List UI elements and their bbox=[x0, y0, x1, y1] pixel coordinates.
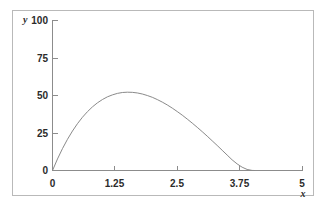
figure-container: 100 75 50 25 0 0 1.25 2.5 3.75 5 y x bbox=[0, 0, 324, 204]
y-axis-tick-labels: 100 75 50 25 0 bbox=[31, 15, 48, 176]
x-tick-label-3-75: 3.75 bbox=[230, 178, 250, 189]
x-axis-tick-labels: 0 1.25 2.5 3.75 5 bbox=[50, 178, 306, 189]
x-axis-ticks bbox=[53, 166, 303, 171]
x-tick-label-1-25: 1.25 bbox=[105, 178, 125, 189]
y-tick-label-0: 0 bbox=[42, 165, 48, 176]
y-tick-label-100: 100 bbox=[31, 15, 48, 26]
y-tick-label-25: 25 bbox=[37, 128, 49, 139]
y-axis-label: y bbox=[22, 14, 28, 25]
plot-area: 100 75 50 25 0 0 1.25 2.5 3.75 5 y x bbox=[0, 0, 324, 204]
x-axis-label: x bbox=[300, 188, 306, 199]
data-curve bbox=[53, 92, 255, 170]
y-tick-label-50: 50 bbox=[37, 90, 49, 101]
y-axis-ticks bbox=[53, 21, 59, 171]
y-tick-label-75: 75 bbox=[37, 53, 49, 64]
x-tick-label-2-5: 2.5 bbox=[170, 178, 184, 189]
x-tick-label-0: 0 bbox=[50, 178, 56, 189]
